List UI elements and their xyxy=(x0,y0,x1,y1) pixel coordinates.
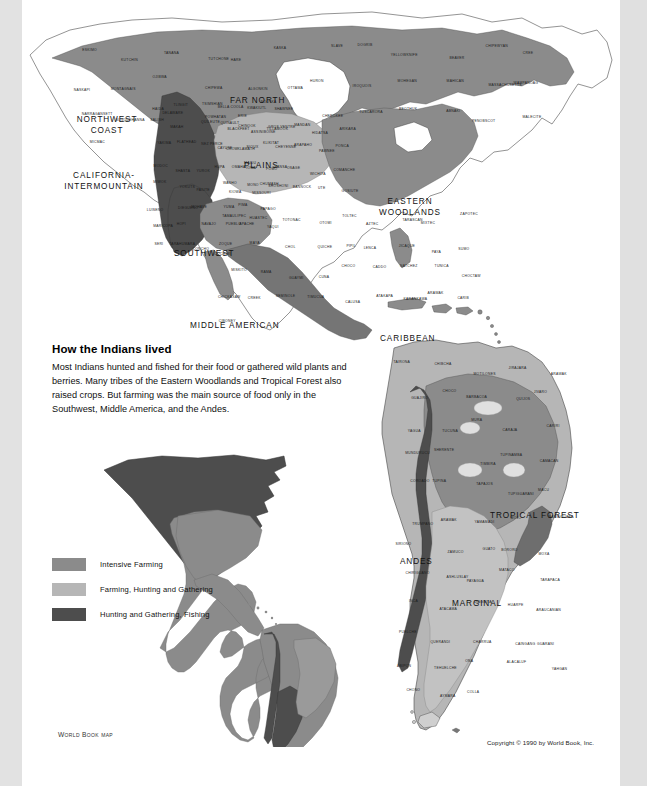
tribe-label: HAIDA xyxy=(152,107,164,111)
tribe-label: PENOBSCOT xyxy=(472,119,496,123)
tribe-label: SALISH xyxy=(150,118,164,122)
tribe-label: GOSIUTE xyxy=(342,189,359,193)
tribe-label: CHIPEWA xyxy=(205,86,222,90)
tribe-label: MAIDU xyxy=(244,161,256,165)
tribe-label: CHONO xyxy=(406,688,420,692)
tribe-label: MOXA xyxy=(539,552,550,556)
tribe-label: ZOQUE xyxy=(219,242,232,246)
tribe-label: MANDAN xyxy=(294,123,310,127)
tribe-label: COROADO xyxy=(410,479,429,483)
tribe-label: MAYA xyxy=(250,241,260,245)
tribe-label: OMAHA xyxy=(232,165,246,169)
tribe-label: IOWA xyxy=(246,166,256,170)
tribe-label: CREE xyxy=(523,51,533,55)
legend-label-hunting-gathering-fishing: Hunting and Gathering, Fishing xyxy=(100,610,210,619)
tribe-label: ARAWAK xyxy=(441,518,457,522)
tribe-label: BEAVER xyxy=(450,56,465,60)
tribe-label: MONTAGNAIS xyxy=(111,87,136,91)
tribe-label: TAMAULIPEC xyxy=(222,214,246,218)
tribe-label: YELLOWKNIFE xyxy=(391,53,418,57)
tribe-label: SUSQUEHANNA xyxy=(116,118,145,122)
tribe-label: TUPIGUARANI xyxy=(508,492,534,496)
tribe-label: CHIBCHA xyxy=(434,362,451,366)
tribe-label: SLAVE xyxy=(331,44,343,48)
tribe-label: TUPINA xyxy=(432,479,446,483)
tribe-label: TUSCARORA xyxy=(359,110,383,114)
tribe-label: GUATO xyxy=(483,547,496,551)
tribe-label: QUINAULT xyxy=(220,121,239,125)
tribe-label: ONA xyxy=(465,659,473,663)
tribe-label: YUMA xyxy=(224,205,235,209)
tribe-label: ZAMUCO xyxy=(448,550,464,554)
tribe-label: NARRAGANSETT xyxy=(82,112,113,116)
tribe-label: TUNICA xyxy=(435,264,449,268)
tribe-label: TAPAJOS xyxy=(476,482,493,486)
tribe-label: TARAHUMARA xyxy=(169,242,195,246)
tribe-label: BANNOCK xyxy=(293,185,312,189)
tribe-label: HOPI xyxy=(177,222,186,226)
tribe-label: CHEYENNE xyxy=(275,145,296,149)
tribe-label: CHIRIGUANO xyxy=(406,571,430,575)
tribe-label: NAMBICUARA xyxy=(549,515,574,519)
tribe-label: SEMINOLE xyxy=(276,294,296,298)
tribe-label: OTOMI xyxy=(319,221,331,225)
tribe-label: KASKA xyxy=(274,46,287,50)
tribe-label: MAKAH xyxy=(170,125,183,129)
tribe-label: JIRAJARA xyxy=(509,366,527,370)
tribe-label: CONCHO xyxy=(193,247,210,251)
tribe-label: QUICHE xyxy=(318,245,333,249)
tribe-label: WAMPANOAG xyxy=(514,81,539,85)
legend-row-intensive-farming: Intensive Farming xyxy=(52,557,292,571)
tribe-label: ABIPON xyxy=(397,664,411,668)
tribe-label: PIPIL xyxy=(346,244,356,248)
tribe-label: CALUSA xyxy=(345,300,360,304)
tribe-label: TANANA xyxy=(164,51,179,55)
tribe-label: CHINOOK xyxy=(238,124,256,128)
tribe-label: WASHO xyxy=(223,181,237,185)
tribe-label: PUELCHE xyxy=(399,630,417,634)
tribe-label: CARIB xyxy=(457,296,469,300)
tribe-label: HURON xyxy=(310,79,324,83)
tribe-label: JIVARO xyxy=(534,390,548,394)
tribe-label: TUPINAMBA xyxy=(500,453,522,457)
tribe-label: COMANCHE xyxy=(334,168,356,172)
tribe-label: QUILEUTE xyxy=(201,120,220,124)
tribe-label: CHOCO xyxy=(443,389,457,393)
tribe-label: ESKIMO xyxy=(82,48,97,52)
tribe-label: AZTEC xyxy=(366,222,378,226)
tribe-label: CHIPEWYAN xyxy=(486,44,509,48)
tribe-label: CHOL xyxy=(285,245,295,249)
tribe-label: MIXTEC xyxy=(421,221,435,225)
area-label-california-intermountain: CALIFORNIA-INTERMOUNTAIN xyxy=(44,170,164,192)
legend-row-farming-hunting-gathering: Farming, Hunting and Gathering xyxy=(52,582,292,596)
tribe-label: CIBONEY xyxy=(219,319,236,323)
tribe-label: TILLAMOOK xyxy=(267,127,289,131)
tribe-label: CHEROKEE xyxy=(322,114,343,118)
tribe-label: NOOTKA xyxy=(261,100,277,104)
tribe-label: MISSOURI xyxy=(252,191,271,195)
small-island-marker xyxy=(452,728,460,733)
tribe-label: MATACO xyxy=(499,568,515,572)
tribe-label: CHOCTAW xyxy=(462,274,481,278)
tribe-label: QUIJOS xyxy=(516,397,530,401)
tribe-label: MALECITE xyxy=(523,115,542,119)
tribe-label: SHERENTE xyxy=(434,448,454,452)
tribe-label: GUAYMI xyxy=(289,276,304,280)
tribe-label: UTE xyxy=(318,186,326,190)
tribe-label: NASKAPI xyxy=(74,88,90,92)
tribe-label: KIOWA xyxy=(229,190,241,194)
tribe-label: MAHICAN xyxy=(447,79,464,83)
tribe-label: CAINGANG xyxy=(515,642,535,646)
tribe-label: SIRIONO xyxy=(395,542,411,546)
tribe-label: CUNA xyxy=(319,275,330,279)
tribe-label: MUNDURUCU xyxy=(405,451,430,455)
tribe-label: ATACAMA xyxy=(439,607,457,611)
tribe-label: YUROK xyxy=(197,169,210,173)
tribe-label: ALACALUF xyxy=(507,660,527,664)
tribe-label: ARAWAK xyxy=(551,372,567,376)
tribe-label: QUERANDI xyxy=(430,640,450,644)
tribe-label: NAVAJO xyxy=(202,222,217,226)
tribe-label: YAGUA xyxy=(408,429,421,433)
tribe-label: INCA xyxy=(409,599,418,603)
tribe-label: NATCHEZ xyxy=(400,264,418,268)
